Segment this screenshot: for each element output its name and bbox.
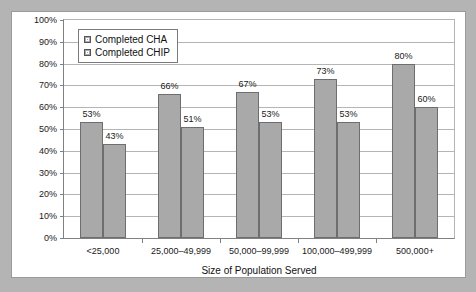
y-axis-tick	[60, 129, 64, 130]
x-axis-tick-label: 100,000–499,999	[302, 246, 372, 256]
x-axis-tick-label: 25,000–49,999	[151, 246, 211, 256]
bar	[337, 122, 360, 238]
plot-area: 100%90%80%70%60%50%40%30%20%10%0% <25,00…	[63, 19, 455, 239]
y-axis-tick-label: 80%	[39, 59, 57, 69]
bar	[392, 64, 415, 238]
y-axis-tick-label: 90%	[39, 37, 57, 47]
legend-label: Completed CHIP	[95, 47, 170, 58]
y-axis-tick-label: 20%	[39, 189, 57, 199]
legend-item-completed-cha: Completed CHA	[84, 33, 170, 46]
bar	[103, 144, 126, 238]
x-axis-tick-label: 500,000+	[396, 246, 434, 256]
chart-card: 100%90%80%70%60%50%40%30%20%10%0% <25,00…	[11, 11, 466, 278]
bar-value-label: 73%	[316, 66, 334, 76]
bar-value-label: 66%	[160, 81, 178, 91]
y-axis-tick	[60, 107, 64, 108]
y-axis-tick	[60, 64, 64, 65]
y-axis-tick-label: 10%	[39, 211, 57, 221]
bar	[158, 94, 181, 238]
y-axis-tick-label: 30%	[39, 168, 57, 178]
x-axis-tick	[376, 238, 377, 243]
bar	[181, 127, 204, 238]
bar	[314, 79, 337, 238]
y-axis-tick	[60, 20, 64, 21]
y-axis-tick-label: 70%	[39, 80, 57, 90]
y-axis-tick	[60, 151, 64, 152]
bar-value-label: 53%	[339, 109, 357, 119]
legend-label: Completed CHA	[95, 34, 167, 45]
screenshot-page: 100%90%80%70%60%50%40%30%20%10%0% <25,00…	[0, 0, 476, 292]
y-axis-tick	[60, 216, 64, 217]
bar	[259, 122, 282, 238]
y-axis-tick-label: 0%	[44, 233, 57, 243]
legend-swatch-icon	[84, 49, 91, 56]
y-axis-tick	[60, 238, 64, 239]
bar-value-label: 60%	[417, 94, 435, 104]
y-axis-tick	[60, 194, 64, 195]
y-axis-tick	[60, 42, 64, 43]
bar	[80, 122, 103, 238]
bar	[415, 107, 438, 238]
y-axis-tick-label: 100%	[34, 15, 57, 25]
x-axis-title: Size of Population Served	[63, 265, 455, 276]
bar-value-label: 51%	[183, 114, 201, 124]
legend-item-completed-chip: Completed CHIP	[84, 46, 170, 59]
y-axis-tick-label: 40%	[39, 146, 57, 156]
x-axis-tick	[142, 238, 143, 243]
bar-value-label: 67%	[238, 79, 256, 89]
x-axis-tick-label: <25,000	[87, 246, 120, 256]
bar	[236, 92, 259, 238]
x-axis-tick	[298, 238, 299, 243]
x-axis-tick	[220, 238, 221, 243]
y-axis-tick	[60, 85, 64, 86]
bar-value-label: 53%	[82, 109, 100, 119]
bar-value-label: 53%	[261, 109, 279, 119]
y-axis-tick	[60, 173, 64, 174]
y-axis-tick-label: 50%	[39, 124, 57, 134]
bar-value-label: 80%	[394, 51, 412, 61]
y-axis-tick-label: 60%	[39, 102, 57, 112]
x-axis-tick-label: 50,000–99,999	[229, 246, 289, 256]
bar-value-label: 43%	[105, 131, 123, 141]
chart-legend: Completed CHA Completed CHIP	[78, 29, 178, 63]
legend-swatch-icon	[84, 36, 91, 43]
